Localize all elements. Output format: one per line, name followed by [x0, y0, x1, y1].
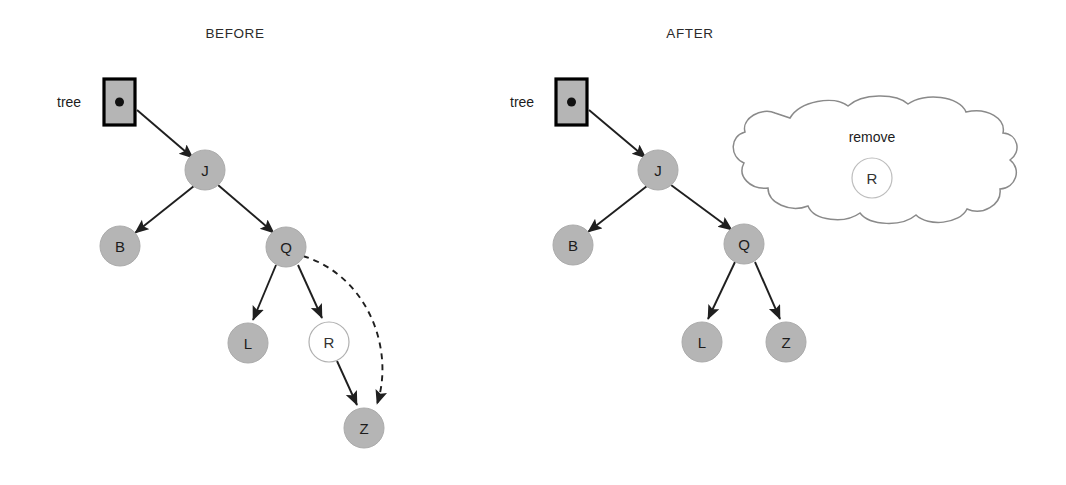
node-label-b-after: B — [568, 237, 578, 254]
edge-q-to-z-after — [755, 262, 780, 319]
edge-tree-to-j-before — [137, 110, 193, 158]
tree-pointer-dot-before — [115, 98, 124, 107]
node-label-l-after: L — [698, 334, 706, 351]
node-label-q-after: Q — [738, 236, 750, 253]
removed-node-r-label: R — [867, 170, 878, 187]
node-q-after: Q — [724, 224, 764, 264]
node-label-r-before: R — [324, 334, 335, 351]
node-l-after: L — [682, 322, 722, 362]
node-label-b-before: B — [115, 238, 125, 255]
node-z-before: Z — [344, 408, 384, 448]
edge-q-to-l-before — [253, 265, 276, 320]
node-label-z-after: Z — [781, 334, 790, 351]
edge-r-to-z-before — [337, 361, 357, 405]
node-l-before: L — [228, 323, 268, 363]
edge-j-to-b-before — [135, 186, 194, 233]
edge-q-to-r-before — [298, 265, 322, 318]
node-b-after: B — [553, 225, 593, 265]
node-b-before: B — [100, 226, 140, 266]
edge-j-to-q-after — [671, 185, 732, 230]
edge-j-to-q-before — [218, 185, 274, 233]
panel-title-before: BEFORE — [205, 26, 264, 41]
tree-remove-diagram: BEFORE tree J B Q — [0, 0, 1066, 485]
edge-q-to-l-after — [708, 262, 735, 319]
node-j-before: J — [185, 150, 225, 190]
node-j-after: J — [638, 150, 678, 190]
edge-tree-to-j-after — [589, 110, 646, 158]
node-label-l-before: L — [244, 335, 252, 352]
node-z-after: Z — [766, 322, 806, 362]
node-label-j-before: J — [201, 162, 209, 179]
tree-pointer-label-after: tree — [510, 94, 534, 110]
remove-cloud: remove R — [733, 96, 1017, 223]
node-r-before: R — [309, 322, 349, 362]
node-label-z-before: Z — [359, 420, 368, 437]
cloud-label-remove: remove — [849, 129, 896, 145]
node-label-j-after: J — [654, 162, 662, 179]
panel-after: AFTER tree J B Q — [510, 26, 1017, 362]
tree-pointer-label-before: tree — [57, 94, 81, 110]
edge-j-to-b-after — [588, 186, 647, 232]
node-q-before: Q — [266, 227, 306, 267]
tree-pointer-dot-after — [567, 98, 576, 107]
panel-title-after: AFTER — [666, 26, 713, 41]
panel-before: BEFORE tree J B Q — [57, 26, 384, 448]
node-label-q-before: Q — [280, 239, 292, 256]
